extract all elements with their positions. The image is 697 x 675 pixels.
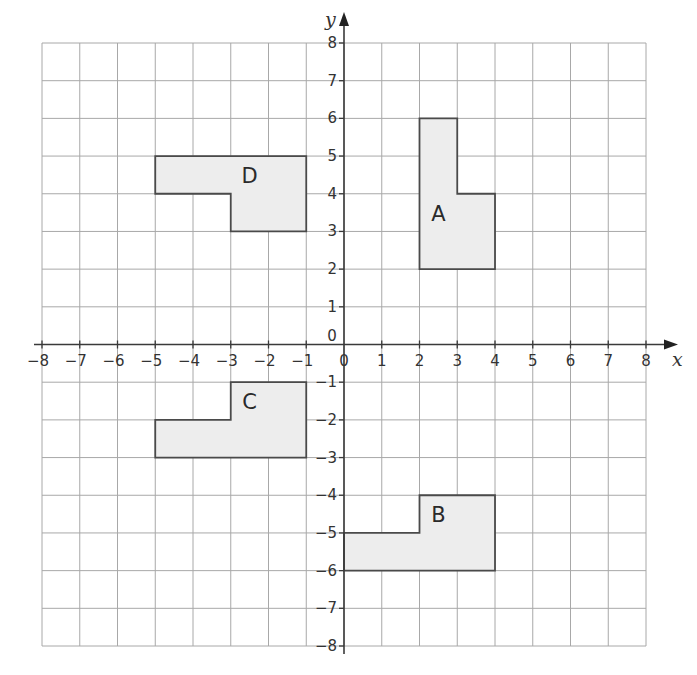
x-tick-label: −5 <box>140 352 162 370</box>
x-tick-label: 3 <box>452 352 462 370</box>
y-tick-label: 6 <box>327 109 337 127</box>
y-tick-label: −8 <box>315 637 337 655</box>
y-tick-label: −7 <box>315 599 337 617</box>
x-tick-label: −4 <box>178 352 200 370</box>
x-tick-label: 6 <box>566 352 576 370</box>
x-tick-label: −1 <box>291 352 313 370</box>
y-tick-label: −3 <box>315 449 337 467</box>
shape-d <box>155 156 306 231</box>
x-tick-label: 5 <box>528 352 538 370</box>
coordinate-grid: −8−7−6−5−4−3−2−11234567887654321−1−2−3−4… <box>0 0 697 675</box>
x-tick-label: −7 <box>65 352 87 370</box>
shape-a <box>420 118 496 269</box>
origin-label-y: 0 <box>327 327 337 345</box>
y-axis-arrow-icon <box>339 12 349 26</box>
y-tick-label: 5 <box>327 147 337 165</box>
y-tick-label: −4 <box>315 486 337 504</box>
x-tick-label: 4 <box>490 352 500 370</box>
x-tick-label: −3 <box>216 352 238 370</box>
y-tick-label: 7 <box>327 72 337 90</box>
y-tick-label: −6 <box>315 562 337 580</box>
shape-c <box>155 382 306 457</box>
x-tick-label: −8 <box>27 352 49 370</box>
y-tick-label: −1 <box>315 373 337 391</box>
y-tick-label: 2 <box>327 260 337 278</box>
origin-label-x: 0 <box>339 352 349 370</box>
shape-label-c: C <box>242 390 257 414</box>
y-tick-label: −2 <box>315 411 337 429</box>
shape-b <box>344 495 495 570</box>
x-tick-label: 1 <box>377 352 387 370</box>
x-tick-label: 2 <box>415 352 425 370</box>
y-tick-label: 4 <box>327 185 337 203</box>
y-tick-label: 3 <box>327 222 337 240</box>
y-tick-label: 8 <box>327 34 337 52</box>
x-tick-label: 7 <box>603 352 613 370</box>
x-tick-label: 8 <box>641 352 651 370</box>
x-axis-label: x <box>672 348 683 370</box>
x-tick-label: −2 <box>253 352 275 370</box>
y-axis-label: y <box>324 8 336 30</box>
shape-label-b: B <box>431 503 445 527</box>
x-tick-label: −6 <box>102 352 124 370</box>
y-tick-label: 1 <box>327 298 337 316</box>
y-tick-label: −5 <box>315 524 337 542</box>
shape-label-d: D <box>242 164 258 188</box>
shape-label-a: A <box>431 202 446 226</box>
